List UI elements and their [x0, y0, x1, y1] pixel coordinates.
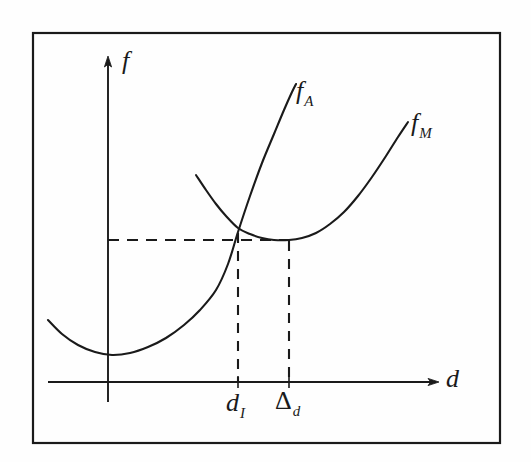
x-tick-label-delta-d: Δd: [275, 388, 299, 414]
curve-label-fa-base: f: [296, 76, 303, 105]
curve-label-fm: fM: [411, 110, 431, 136]
curve-label-fm-subscript: M: [419, 125, 432, 141]
curve-label-fa: fA: [296, 78, 312, 104]
curve-fa: [48, 84, 296, 355]
x-tick-label-d-i-base: d: [226, 388, 239, 417]
x-tick-label-d-i: dI: [226, 390, 244, 416]
x-axis-label-text: d: [446, 364, 459, 393]
y-axis-label-text: f: [122, 46, 129, 75]
figure-container: f d fA fM dI Δd: [0, 0, 531, 462]
x-tick-label-d-i-subscript: I: [240, 405, 245, 421]
curve-fm: [196, 122, 408, 240]
x-axis-label: d: [446, 366, 459, 392]
curve-label-fm-base: f: [411, 108, 418, 137]
x-tick-label-delta-d-base: Δ: [275, 386, 292, 415]
y-axis-label: f: [122, 48, 129, 74]
x-tick-label-delta-d-subscript: d: [293, 403, 301, 419]
curve-label-fa-subscript: A: [304, 93, 313, 109]
